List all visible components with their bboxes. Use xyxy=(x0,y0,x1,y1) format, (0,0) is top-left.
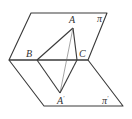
segment-AC xyxy=(73,28,77,60)
segment-BA-prime xyxy=(37,60,60,93)
label-C: C xyxy=(79,49,86,59)
label-pi-prime-mark: ′ xyxy=(107,95,108,101)
label-pi-prime: π′ xyxy=(102,96,108,106)
label-A-prime: A′ xyxy=(57,96,64,106)
diagram-canvas xyxy=(0,0,132,119)
segment-CA-prime xyxy=(60,60,77,93)
label-B: B xyxy=(26,49,32,59)
label-pi: π xyxy=(97,14,102,24)
label-A: A xyxy=(69,15,75,25)
plane-pi xyxy=(9,13,107,60)
label-A-prime-mark: ′ xyxy=(63,95,64,101)
dihedral-diagram: A B C π A′ π′ xyxy=(0,0,132,119)
